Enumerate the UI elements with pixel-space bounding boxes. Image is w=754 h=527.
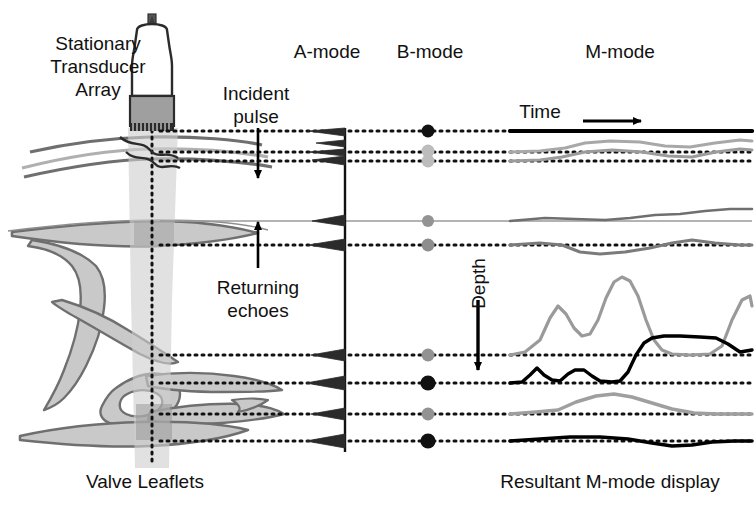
label-a-mode: A-mode	[282, 40, 372, 63]
b-mode-dot	[420, 433, 435, 448]
label-b-mode: B-mode	[385, 40, 475, 63]
m-mode-trace-septum	[510, 209, 752, 221]
b-mode-dot	[422, 408, 435, 421]
label-depth-axis: Depth	[467, 249, 490, 319]
m-mode-trace-posterior-leaflet	[510, 336, 752, 383]
m-mode-traces	[510, 131, 752, 446]
label-resultant-m-mode-display: Resultant M-mode display	[470, 470, 750, 493]
m-mode-trace-posterior-septum	[510, 240, 752, 254]
label-stationary-transducer-array: Stationary Transducer Array	[8, 32, 188, 101]
label-valve-leaflets: Valve Leaflets	[30, 470, 260, 493]
b-mode-dot	[422, 125, 435, 138]
m-mode-trace-anterior-leaflet	[510, 277, 752, 355]
b-mode-dot	[422, 155, 435, 168]
label-returning-echoes: Returning echoes	[192, 276, 324, 322]
b-mode-dot	[422, 239, 435, 252]
b-mode-dot	[420, 375, 435, 390]
label-m-mode: M-mode	[570, 40, 670, 63]
label-time-axis: Time	[505, 100, 575, 123]
b-mode-dots	[420, 125, 435, 449]
label-incident-pulse: Incident pulse	[196, 82, 316, 128]
b-mode-dot	[422, 349, 435, 362]
m-mode-trace-posterior-wall-outer	[510, 394, 752, 414]
ultrasound-modes-figure: Stationary Transducer Array Incident pul…	[0, 0, 754, 527]
b-mode-dot	[422, 215, 434, 227]
